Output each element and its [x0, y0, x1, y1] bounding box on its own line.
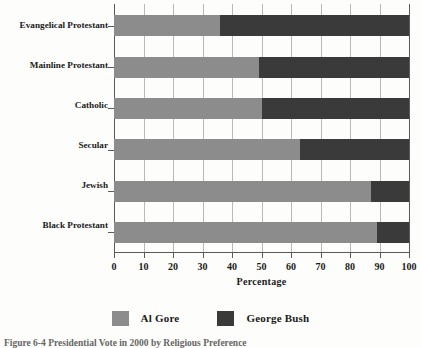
x-tick-80 — [350, 252, 351, 258]
y-axis-label-0: Evangelical Protestant — [0, 20, 108, 30]
x-tick-10 — [144, 252, 145, 258]
bar-segment-al-gore[interactable] — [114, 15, 220, 36]
bar-segment-al-gore[interactable] — [114, 222, 377, 243]
x-tick-90 — [380, 252, 381, 258]
y-axis-label-4: Jewish — [0, 180, 108, 190]
bar-segment-george-bush[interactable] — [377, 222, 409, 243]
figure-presidential-vote-2000: Evangelical Protestant Mainline Protesta… — [0, 0, 421, 348]
x-tick-label-100: 100 — [389, 261, 421, 272]
legend-item-george-bush: George Bush — [217, 311, 309, 326]
y-axis-label-2: Catholic — [0, 100, 108, 110]
legend-item-al-gore: Al Gore — [112, 311, 180, 326]
bar-row[interactable] — [114, 181, 409, 202]
bar-segment-george-bush[interactable] — [300, 139, 409, 160]
legend-label-al-gore: Al Gore — [141, 312, 180, 324]
bar-row[interactable] — [114, 98, 409, 119]
bar-row[interactable] — [114, 15, 409, 36]
x-tick-20 — [173, 252, 174, 258]
x-tick-70 — [321, 252, 322, 258]
bar-segment-al-gore[interactable] — [114, 98, 262, 119]
bar-segment-george-bush[interactable] — [259, 57, 409, 78]
x-tick-100 — [409, 252, 410, 258]
y-axis-labels: Evangelical Protestant Mainline Protesta… — [0, 4, 108, 252]
y-tick-4 — [108, 191, 114, 192]
bar-segment-al-gore[interactable] — [114, 181, 371, 202]
y-axis-label-3: Secular — [0, 140, 108, 150]
y-axis-label-1: Mainline Protestant — [0, 60, 108, 70]
bar-segment-george-bush[interactable] — [220, 15, 409, 36]
x-tick-50 — [262, 252, 263, 258]
legend-swatch-george-bush — [217, 311, 234, 326]
y-tick-1 — [108, 67, 114, 68]
y-axis-label-5: Black Protestant — [0, 220, 108, 230]
legend-swatch-al-gore — [112, 311, 129, 326]
x-tick-60 — [291, 252, 292, 258]
bar-row[interactable] — [114, 139, 409, 160]
x-tick-40 — [232, 252, 233, 258]
bar-row[interactable] — [114, 57, 409, 78]
figure-caption: Figure 6-4 Presidential Vote in 2000 by … — [4, 338, 421, 348]
plot-area — [114, 4, 409, 252]
y-tick-2 — [108, 108, 114, 109]
x-tick-30 — [203, 252, 204, 258]
y-tick-0 — [108, 26, 114, 27]
bar-segment-george-bush[interactable] — [371, 181, 409, 202]
gridline-100 — [409, 4, 410, 252]
y-tick-3 — [108, 150, 114, 151]
x-axis-title: Percentage — [114, 276, 409, 287]
bar-segment-al-gore[interactable] — [114, 139, 300, 160]
bar-rows — [114, 4, 409, 252]
x-tick-0 — [114, 252, 115, 258]
bar-row[interactable] — [114, 222, 409, 243]
chart-legend: Al Gore George Bush — [0, 307, 421, 329]
legend-label-george-bush: George Bush — [246, 312, 309, 324]
y-tick-5 — [108, 232, 114, 233]
bar-segment-al-gore[interactable] — [114, 57, 259, 78]
bar-segment-george-bush[interactable] — [262, 98, 410, 119]
